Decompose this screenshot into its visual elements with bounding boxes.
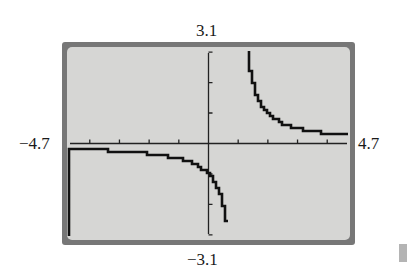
graph-screen [67, 47, 350, 240]
function-plot [67, 47, 350, 240]
page-edge-marker [399, 244, 407, 262]
ymax-label: 3.1 [196, 22, 217, 39]
ymin-label: −3.1 [187, 251, 218, 268]
xmax-label: 4.7 [358, 135, 379, 152]
xmin-label: −4.7 [19, 135, 50, 152]
calculator-screen-frame [62, 42, 355, 245]
